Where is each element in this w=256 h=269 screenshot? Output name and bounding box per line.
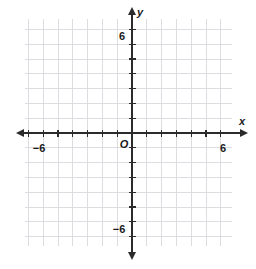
x-tick-label-neg-6: −6	[33, 142, 46, 154]
y-tick-label-pos-6: 6	[119, 30, 125, 42]
plot-background	[0, 0, 256, 269]
x-axis-label: x	[238, 115, 246, 127]
origin-label: O	[120, 138, 129, 150]
coordinate-plane: x y O −6 6 6 −6	[0, 0, 256, 269]
y-axis-label: y	[136, 6, 144, 18]
x-tick-label-pos-6: 6	[220, 142, 226, 154]
y-tick-label-neg-6: −6	[113, 223, 126, 235]
coordinate-plane-svg: x y O −6 6 6 −6	[0, 0, 256, 269]
